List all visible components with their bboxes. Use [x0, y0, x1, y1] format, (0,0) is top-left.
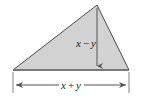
base-label-left-var: x — [60, 79, 66, 91]
base-label-operator: + — [68, 79, 74, 91]
triangle-shape — [13, 5, 129, 70]
height-label-left-var: x — [75, 37, 81, 49]
height-label-right-var: y — [90, 37, 96, 49]
base-label: x+y — [60, 79, 81, 91]
height-label-operator: − — [83, 37, 89, 49]
triangle-diagram: x−y x+y — [0, 0, 142, 97]
base-label-right-var: y — [75, 79, 81, 91]
figure-container: x−y x+y — [0, 0, 142, 97]
height-label: x−y — [75, 37, 96, 49]
